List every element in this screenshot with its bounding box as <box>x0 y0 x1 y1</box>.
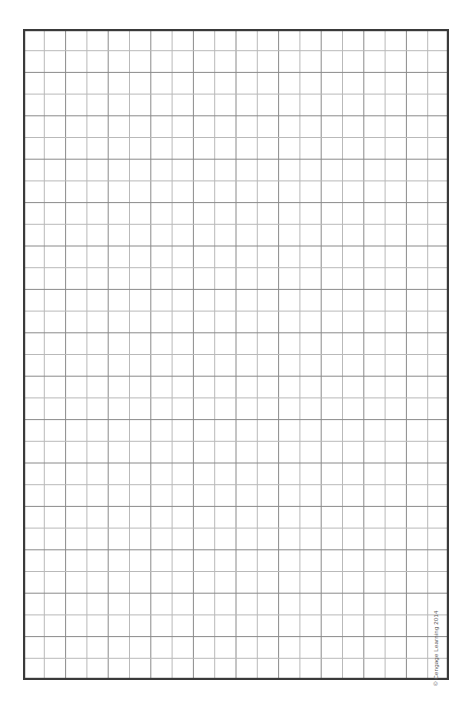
copyright-notice: © Cengage Learning 2014 <box>434 556 450 686</box>
graph-grid-svg <box>23 29 449 680</box>
graph-grid <box>23 29 449 680</box>
copyright-text: © Cengage Learning 2014 <box>433 610 439 686</box>
graph-paper-page: © Cengage Learning 2014 <box>0 0 475 714</box>
